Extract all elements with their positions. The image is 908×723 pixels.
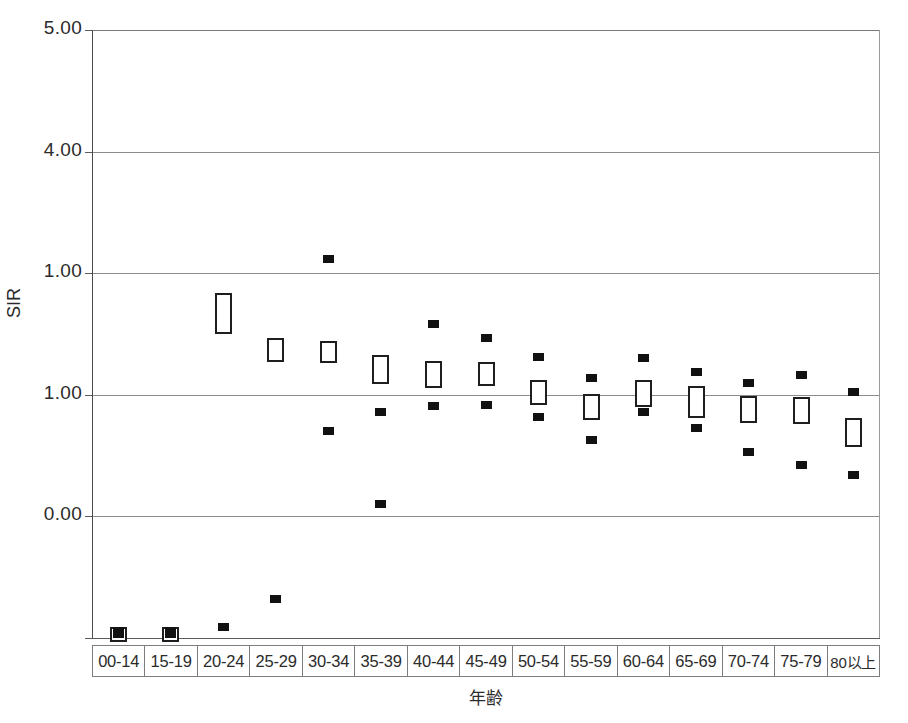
estimate-box-marker <box>478 362 495 386</box>
x-axis-category-label: 15-19 <box>145 646 197 676</box>
y-axis-tick-label: 1.00 <box>8 382 82 404</box>
estimate-box-marker <box>845 418 862 447</box>
x-axis-category-label: 55-59 <box>565 646 617 676</box>
lower-limit-marker <box>533 413 544 421</box>
estimate-box-marker <box>320 341 337 363</box>
y-axis-tick-label: 5.00 <box>8 17 82 39</box>
x-axis-category-label: 75-79 <box>775 646 827 676</box>
estimate-box-marker <box>530 380 547 404</box>
y-axis-tick <box>85 273 92 274</box>
lower-limit-marker <box>638 408 649 416</box>
lower-limit-marker <box>481 401 492 409</box>
estimate-box-marker <box>583 394 600 421</box>
x-axis-category-label: 65-69 <box>670 646 722 676</box>
y-axis-tick <box>85 516 92 517</box>
y-axis-tick-label: 0.00 <box>8 503 82 525</box>
estimate-box-marker <box>372 355 389 384</box>
lower-limit-marker <box>270 595 281 603</box>
y-axis-tick <box>85 638 92 639</box>
x-axis-category-label: 25-29 <box>250 646 302 676</box>
estimate-box-marker <box>635 380 652 407</box>
chart-figure: 5.004.001.001.000.00 SIR 00-1415-1920-24… <box>0 0 908 723</box>
y-axis-title: SIR <box>4 288 25 318</box>
estimate-box-marker <box>425 361 442 388</box>
x-axis-category-label: 20-24 <box>198 646 250 676</box>
x-axis-title: 年齢 <box>92 684 880 709</box>
lower-limit-marker <box>586 436 597 444</box>
lower-limit-marker <box>323 427 334 435</box>
upper-limit-marker <box>586 374 597 382</box>
x-axis-category-row: 00-1415-1920-2425-2930-3435-3940-4445-49… <box>92 645 880 677</box>
upper-limit-marker <box>691 368 702 376</box>
upper-limit-marker <box>481 334 492 342</box>
lower-limit-marker <box>743 448 754 456</box>
x-axis-category-label: 40-44 <box>408 646 460 676</box>
lower-limit-marker <box>428 402 439 410</box>
y-axis-tick <box>85 30 92 31</box>
upper-limit-marker <box>638 354 649 362</box>
upper-limit-marker <box>796 371 807 379</box>
x-axis-category-label: 50-54 <box>513 646 565 676</box>
estimate-box-marker <box>688 386 705 418</box>
lower-limit-marker <box>165 630 176 638</box>
upper-limit-marker <box>375 500 386 508</box>
x-axis-category-label: 60-64 <box>618 646 670 676</box>
figure-title-partial <box>250 0 700 10</box>
lower-limit-marker <box>691 424 702 432</box>
lower-limit-marker <box>796 461 807 469</box>
plot-right-edge <box>879 30 880 638</box>
x-axis-category-label: 30-34 <box>303 646 355 676</box>
upper-limit-marker <box>428 320 439 328</box>
y-axis-tick-label: 1.00 <box>8 260 82 282</box>
lower-limit-marker <box>218 623 229 631</box>
upper-limit-marker <box>848 388 859 396</box>
estimate-box-marker <box>267 338 284 362</box>
lower-limit-marker <box>848 471 859 479</box>
x-axis-category-label: 35-39 <box>355 646 407 676</box>
y-axis-tick <box>85 152 92 153</box>
y-axis-tick <box>85 395 92 396</box>
x-axis-category-label: 00-14 <box>93 646 145 676</box>
estimate-box-marker <box>740 396 757 423</box>
estimate-box-marker <box>793 397 810 424</box>
y-axis-tick-label: 4.00 <box>8 139 82 161</box>
upper-limit-marker <box>533 353 544 361</box>
lower-limit-marker <box>113 630 124 638</box>
upper-limit-marker <box>743 379 754 387</box>
upper-limit-marker <box>323 255 334 263</box>
gridline <box>92 638 880 639</box>
x-axis-category-label: 80以上 <box>828 646 880 676</box>
x-axis-category-label: 70-74 <box>723 646 775 676</box>
x-axis-category-label: 45-49 <box>460 646 512 676</box>
lower-limit-marker <box>375 408 386 416</box>
estimate-box-marker <box>215 293 232 334</box>
